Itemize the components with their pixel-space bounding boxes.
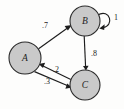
node-b-label: B <box>82 16 88 26</box>
edge-b-self-loop-arrowhead <box>99 24 104 30</box>
edge-a-to-b: .7 <box>39 21 72 49</box>
edge-b-self-loop: 1 <box>98 13 119 30</box>
edge-b-to-c-line <box>84 36 85 67</box>
edge-label-b-to-c: .8 <box>91 49 97 58</box>
edge-label-a-to-b: .7 <box>42 21 48 30</box>
edge-b-to-c: .8 <box>83 36 97 71</box>
edge-label-a-to-c: .3 <box>44 77 50 86</box>
edge-label-b-self-loop: 1 <box>114 13 118 22</box>
state-transition-diagram: .7 .8 1 .2 .3 A <box>0 0 124 109</box>
node-a[interactable]: A <box>9 42 41 74</box>
graph-canvas: .7 .8 1 .2 .3 A <box>0 0 124 109</box>
node-a-label: A <box>21 53 28 63</box>
edge-a-to-c-line <box>35 72 69 86</box>
edge-label-c-to-a: .2 <box>53 65 59 74</box>
edge-a-to-c: .3 <box>35 72 72 89</box>
edge-a-to-b-line <box>39 27 69 49</box>
node-b[interactable]: B <box>70 6 100 36</box>
node-c[interactable]: C <box>70 70 100 100</box>
node-c-label: C <box>82 80 89 90</box>
